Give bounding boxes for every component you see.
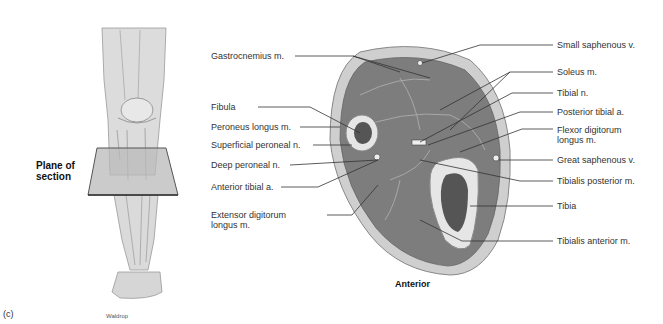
label-posterior-tibial-a: Posterior tibial a. [557,107,624,117]
label-tibial-n: Tibial n. [557,88,588,98]
label-flexor-digitorum-line2: longus m. [557,135,622,145]
label-flexor-digitorum-line1: Flexor digitorum [557,125,622,135]
label-anterior-tibial-a: Anterior tibial a. [211,182,274,192]
label-peroneus-longus: Peroneus longus m. [211,122,291,132]
label-soleus: Soleus m. [557,67,597,77]
label-superficial-peroneal-n: Superficial peroneal n. [211,140,301,150]
label-fibula: Fibula [211,102,236,112]
label-extensor-digitorum-line2: longus m. [211,220,286,230]
label-extensor-digitorum-line1: Extensor digitorum [211,210,286,220]
plane-label-line2: section [36,171,75,182]
credit-label: Waldrop [106,311,128,321]
label-great-saphenous-v: Great saphenous v. [557,155,635,165]
label-tibialis-posterior: Tibialis posterior m. [557,176,635,186]
label-tibia: Tibia [557,201,576,211]
plane-of-section-label: Plane of section [36,160,75,182]
label-tibialis-anterior: Tibialis anterior m. [557,236,630,246]
plane-label-line1: Plane of [36,160,75,171]
label-deep-peroneal-n: Deep peroneal n. [211,160,280,170]
label-extensor-digitorum: Extensor digitorum longus m. [211,210,286,230]
label-flexor-digitorum: Flexor digitorum longus m. [557,125,622,145]
panel-label: (c) [3,309,14,319]
label-gastrocnemius: Gastrocnemius m. [211,51,284,61]
label-small-saphenous-v: Small saphenous v. [557,40,635,50]
anterior-label: Anterior [395,279,430,289]
